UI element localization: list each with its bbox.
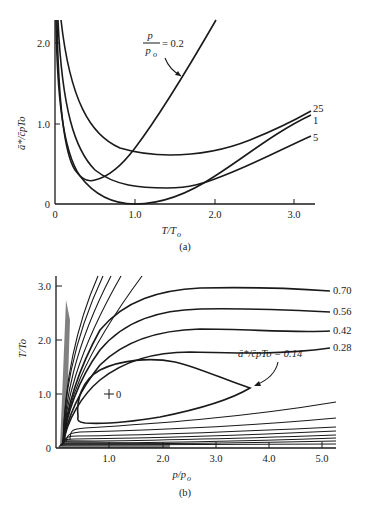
- center-marker: 0: [104, 389, 121, 400]
- annotation-denominator: p: [144, 45, 150, 56]
- panel-a-x-axis-title: T/T: [161, 225, 177, 236]
- center-marker-label: 0: [116, 389, 121, 400]
- panel-b-y-axis-title: T/To: [17, 339, 28, 358]
- panel-a-label: (a): [179, 241, 191, 253]
- panel-b-x-tick-label: 5.0: [315, 453, 328, 464]
- curve-p-5: [58, 20, 311, 188]
- panel-a-x-tick-label: 1.0: [128, 209, 141, 220]
- curve-label-25: 25: [313, 103, 324, 114]
- panel-a-y-tick-label: 0: [45, 199, 50, 210]
- panel-a-x-tick-label: 2.0: [208, 209, 221, 220]
- curve-p-25: [61, 20, 311, 155]
- annotation-value: = 0.2: [162, 38, 184, 49]
- panel-b-x-axis-title: p/p: [172, 469, 186, 480]
- curve-label-1: 1: [313, 115, 318, 126]
- contour-0.14: [78, 360, 250, 424]
- panel-a-x-tick-label: 0: [52, 209, 57, 220]
- annotation-arrow: [256, 362, 278, 385]
- panel-b-chart: 3.0 2.0 1.0 0 1.0 2.0 3.0 4.0 5.0 p/p o …: [17, 276, 351, 499]
- panel-a-chart: 2.0 1.0 0 0 1.0 2.0 3.0 T/T o ā*/c̄pTo 2…: [16, 20, 324, 253]
- panel-b-y-tick-label: 0: [46, 443, 51, 454]
- contour-label-0.70: 0.70: [333, 285, 351, 296]
- panel-a-y-tick-label: 2.0: [37, 38, 50, 49]
- panel-b-x-tick-label: 4.0: [262, 453, 275, 464]
- panel-b-y-tick-label: 2.0: [38, 335, 51, 346]
- panel-b-label: (b): [179, 487, 192, 499]
- panel-b-x-axis-title-sub: o: [187, 474, 191, 483]
- panel-b-x-tick-label: 3.0: [209, 453, 222, 464]
- panel-a-y-axis-title: ā*/c̄pTo: [16, 117, 27, 150]
- contours-steep-left: [63, 276, 142, 444]
- panel-a-x-axis-title-sub: o: [177, 230, 181, 239]
- curve-label-5: 5: [313, 132, 318, 143]
- figure: 2.0 1.0 0 0 1.0 2.0 3.0 T/T o ā*/c̄pTo 2…: [0, 0, 370, 510]
- panel-b-x-tick-label: 2.0: [156, 453, 169, 464]
- contour-annotation-0.14: ā*/c̄pTo = 0.14: [238, 348, 303, 359]
- panel-b-y-tick-label: 1.0: [38, 389, 51, 400]
- annotation-denominator-sub: o: [153, 50, 157, 59]
- annotation-numerator: p: [146, 30, 152, 41]
- contour-label-0.56: 0.56: [333, 306, 351, 317]
- contour-label-0.42: 0.42: [333, 325, 351, 336]
- contour-0.70: [63, 288, 330, 444]
- contour-label-0.28: 0.28: [333, 342, 351, 353]
- annotation-p-0.2: p p o = 0.2: [143, 30, 184, 76]
- panel-b-x-tick-label: 1.0: [102, 453, 115, 464]
- panel-b-y-tick-label: 3.0: [38, 281, 51, 292]
- curve-p-0.2: [57, 20, 216, 181]
- panel-a-x-tick-label: 3.0: [287, 209, 300, 220]
- panel-a-y-tick-label: 1.0: [37, 119, 50, 130]
- arrow-head-icon: [175, 71, 181, 76]
- arrow-head-icon: [254, 381, 261, 386]
